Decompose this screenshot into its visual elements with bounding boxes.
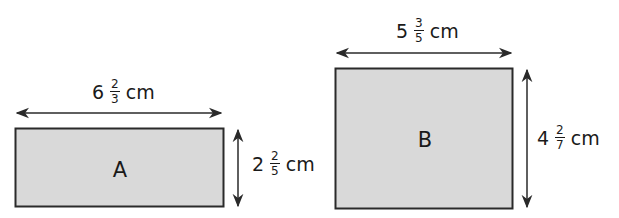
height-label-a: 2 2 5 cm — [252, 150, 315, 177]
unit: cm — [430, 20, 459, 42]
height-label-b: 4 2 7 cm — [537, 124, 600, 151]
denominator: 5 — [271, 164, 279, 177]
rectangle-b-name: B — [418, 128, 432, 152]
denominator: 7 — [556, 138, 564, 151]
denominator: 3 — [111, 92, 119, 105]
numerator: 2 — [110, 78, 120, 92]
whole-part: 5 — [396, 20, 408, 42]
unit: cm — [126, 81, 155, 103]
width-label-b: 5 3 5 cm — [396, 17, 459, 44]
fraction: 2 3 — [110, 78, 120, 105]
fraction: 2 5 — [270, 150, 280, 177]
fraction: 3 5 — [414, 17, 424, 44]
numerator: 2 — [555, 124, 565, 138]
whole-part: 2 — [252, 153, 264, 175]
numerator: 3 — [414, 17, 424, 31]
denominator: 5 — [415, 31, 423, 44]
diagram-canvas — [0, 0, 619, 218]
whole-part: 4 — [537, 127, 549, 149]
width-label-a: 6 2 3 cm — [92, 78, 155, 105]
fraction: 2 7 — [555, 124, 565, 151]
unit: cm — [571, 127, 600, 149]
numerator: 2 — [270, 150, 280, 164]
whole-part: 6 — [92, 81, 104, 103]
rectangle-a-name: A — [113, 158, 127, 182]
unit: cm — [286, 153, 315, 175]
